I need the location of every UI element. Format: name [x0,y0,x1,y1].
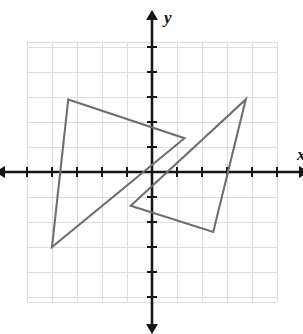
x-axis-arrow-right [299,166,303,178]
y-axis-arrow-down [146,324,158,334]
y-axis-label: y [162,8,172,27]
axes [0,10,303,334]
x-axis-arrow-left [0,166,5,178]
coordinate-plane-figure: y x [0,0,303,334]
y-axis-arrow-up [146,10,158,20]
right-triangle [131,100,246,233]
coordinate-plane-svg: y x [0,0,303,334]
x-axis-label: x [296,145,303,164]
